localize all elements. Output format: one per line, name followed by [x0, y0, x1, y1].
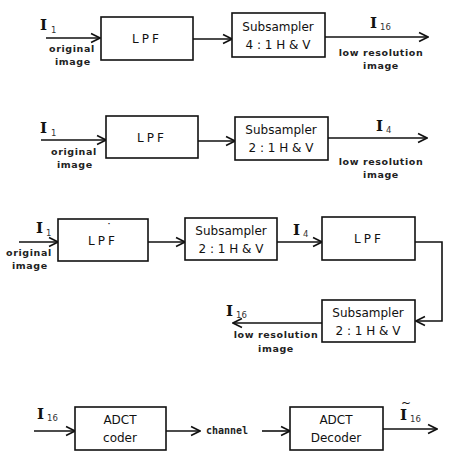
subsampler-ratio: 4 : 1 H & V	[246, 38, 312, 52]
adct-decoder-block: ADCT Decoder	[290, 407, 383, 450]
input-signal-subscript: 1	[51, 128, 56, 138]
intermediate-signal-subscript: 4	[303, 229, 308, 239]
adct-decoder-label-line1: ADCT	[319, 413, 353, 427]
subsampler-label: Subsampler	[242, 20, 313, 34]
input-signal-symbol: I	[40, 119, 47, 137]
output-caption-line2: image	[363, 60, 399, 71]
adct-coder-block: ADCT coder	[75, 407, 166, 450]
adct-decoder-label-line2: Decoder	[311, 431, 362, 445]
lpf-label: LPF	[137, 131, 167, 145]
feedback-connector-arrow	[415, 242, 442, 321]
row-pipeline-2to1: I 1 original image LPF Subsampler 2 : 1 …	[40, 116, 427, 180]
input-signal-subscript: 1	[51, 25, 56, 35]
input-caption-line1: original	[51, 146, 97, 157]
row-pipeline-cascade: I 1 original image LPF ˙ Subsampler 2 : …	[6, 217, 442, 354]
input-caption-line2: image	[12, 260, 48, 271]
input-signal-symbol: I	[37, 405, 44, 423]
lpf-label: LPF	[88, 234, 118, 248]
lpf-prime-block: LPF ˙	[58, 219, 148, 261]
subsampler-ratio: 2 : 1 H & V	[199, 242, 265, 256]
input-signal-subscript: 16	[47, 413, 58, 423]
channel-label: channel	[206, 425, 248, 436]
lpf-2-block: LPF	[322, 217, 415, 260]
input-signal-symbol: I	[40, 16, 47, 34]
adct-coder-label-line2: coder	[103, 431, 137, 445]
input-caption-line1: original	[49, 43, 95, 54]
input-caption-line2: image	[55, 56, 91, 67]
output-caption-line1: low resolution	[234, 329, 319, 340]
subsampler-1-block: Subsampler 2 : 1 H & V	[185, 218, 277, 260]
subsampler-label: Subsampler	[195, 224, 266, 238]
lpf-block: LPF	[101, 17, 193, 60]
block-diagram: I 1 original image LPF Subsampler 4 : 1 …	[0, 0, 450, 464]
subsampler-block: Subsampler 2 : 1 H & V	[235, 117, 328, 160]
subsampler-label: Subsampler	[332, 306, 403, 320]
subsampler-ratio: 2 : 1 H & V	[249, 141, 315, 155]
output-caption-line1: low resolution	[339, 47, 424, 58]
subsampler-2-block: Subsampler 2 : 1 H & V	[322, 300, 415, 342]
subsampler-ratio: 2 : 1 H & V	[336, 324, 402, 338]
lpf-block: LPF	[106, 116, 198, 158]
prime-dot-mark: ˙	[106, 221, 112, 235]
output-signal-symbol: I	[400, 406, 407, 424]
intermediate-signal-symbol: I	[293, 221, 300, 239]
input-signal-symbol: I	[36, 219, 43, 237]
row-coding-chain: I 16 ADCT coder channel ADCT Decoder ~ I…	[34, 396, 437, 450]
input-signal-subscript: 1	[46, 228, 51, 238]
input-caption-line1: original	[6, 247, 52, 258]
output-signal-symbol: I	[226, 302, 233, 320]
output-caption-line1: low resolution	[339, 156, 424, 167]
output-signal-subscript: 16	[380, 22, 391, 32]
output-caption-line2: image	[363, 169, 399, 180]
output-signal-subscript: 16	[236, 310, 247, 320]
output-signal-subscript: 4	[386, 125, 391, 135]
lpf-label: LPF	[354, 232, 384, 246]
output-signal-symbol: I	[376, 117, 383, 135]
adct-coder-label-line1: ADCT	[103, 413, 137, 427]
output-signal-symbol: I	[370, 14, 377, 32]
subsampler-label: Subsampler	[245, 123, 316, 137]
input-caption-line2: image	[57, 159, 93, 170]
output-caption-line2: image	[258, 343, 294, 354]
output-signal-subscript: 16	[410, 414, 421, 424]
row-pipeline-4to1: I 1 original image LPF Subsampler 4 : 1 …	[40, 13, 428, 71]
subsampler-block: Subsampler 4 : 1 H & V	[232, 13, 325, 57]
lpf-label: LPF	[132, 32, 162, 46]
